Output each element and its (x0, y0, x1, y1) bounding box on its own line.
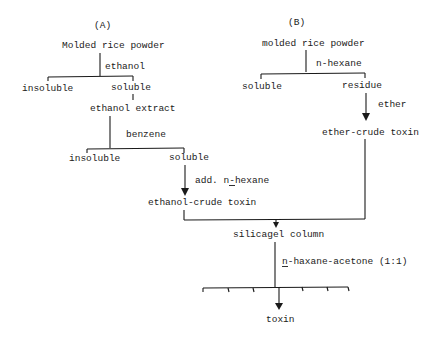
panel-a-soluble-1: soluble (111, 82, 151, 93)
panel-a-insoluble-1: insoluble (22, 83, 74, 94)
panel-b-label: (B) (288, 17, 305, 28)
panel-a-branch-2 (87, 148, 184, 149)
panel-b-branch-1 (261, 73, 365, 74)
panel-b-soluble: soluble (242, 81, 282, 92)
panel-a-extract: ethanol extract (90, 103, 176, 114)
panel-a-solvent-2: benzene (126, 129, 166, 140)
panel-b-solvent-2: ether (378, 99, 407, 110)
final-toxin: toxin (266, 314, 295, 325)
merge-bar (184, 219, 365, 220)
panel-a-start: Molded rice powder (62, 40, 165, 51)
arrow-head-icon (275, 303, 283, 310)
fraction-bar (203, 287, 348, 288)
panel-a-label: (A) (94, 20, 111, 31)
panel-b-residue: residue (342, 80, 382, 91)
panel-a-branch-1 (48, 76, 133, 77)
silicagel-column: silicagel column (233, 229, 324, 240)
panel-a-result: ethanol-crude toxin (148, 197, 256, 208)
panel-a-solvent-1: ethanol (105, 61, 145, 72)
panel-a-soluble-2: soluble (169, 152, 209, 163)
arrow-head-icon (273, 222, 279, 228)
arrow-head-icon (181, 188, 189, 196)
panel-a-insoluble-2: insoluble (69, 153, 121, 164)
panel-b-start: molded rice powder (262, 38, 365, 49)
panel-b-solvent-1: n-hexane (316, 58, 362, 69)
eluent-label: n-haxane-acetone (1:1) (282, 256, 407, 267)
panel-a-step3: add. n-hexane (195, 175, 269, 186)
panel-b-result: ether-crude toxin (322, 127, 419, 138)
extraction-flowchart: (A) Molded rice powder ethanol insoluble… (0, 0, 428, 342)
arrow-head-icon (362, 113, 370, 121)
